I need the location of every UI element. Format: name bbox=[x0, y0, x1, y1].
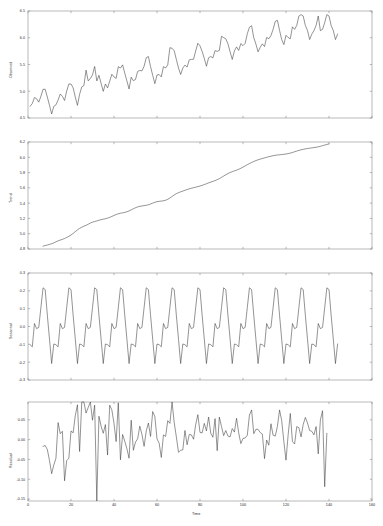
svg-text:6.5: 6.5 bbox=[20, 9, 25, 13]
svg-text:20: 20 bbox=[69, 503, 73, 507]
svg-text:120: 120 bbox=[283, 503, 289, 507]
svg-text:6.2: 6.2 bbox=[20, 140, 25, 144]
svg-text:-0.15: -0.15 bbox=[17, 497, 25, 501]
svg-text:-0.1: -0.1 bbox=[19, 343, 25, 347]
svg-text:6.0: 6.0 bbox=[20, 36, 25, 40]
panel-observed-ylabel: Observed bbox=[9, 62, 13, 78]
panel-residual-plot: -0.15-0.10-0.050.000.0502040608010012014… bbox=[0, 393, 383, 513]
panel-seasonal-plot: -0.3-0.2-0.10.00.10.20.3 bbox=[0, 262, 383, 392]
panel-observed-plot: 4.55.05.56.06.5 bbox=[0, 0, 383, 130]
svg-text:160: 160 bbox=[369, 503, 375, 507]
panel-trend: Trend 4.85.05.25.45.65.86.06.2 bbox=[0, 131, 383, 261]
decomposition-figure: Observed 4.55.05.56.06.5 Trend 4.85.05.2… bbox=[0, 0, 383, 526]
svg-text:5.4: 5.4 bbox=[20, 202, 25, 206]
svg-text:40: 40 bbox=[112, 503, 116, 507]
panel-trend-plot: 4.85.05.25.45.65.86.06.2 bbox=[0, 131, 383, 261]
svg-text:0.00: 0.00 bbox=[18, 438, 25, 442]
x-axis-label: Time bbox=[192, 512, 200, 516]
svg-text:5.0: 5.0 bbox=[20, 232, 25, 236]
svg-text:140: 140 bbox=[326, 503, 332, 507]
panel-residual: Residual -0.15-0.10-0.050.000.0502040608… bbox=[0, 393, 383, 526]
svg-text:-0.10: -0.10 bbox=[17, 478, 25, 482]
svg-text:6.0: 6.0 bbox=[20, 156, 25, 160]
svg-text:5.8: 5.8 bbox=[20, 171, 25, 175]
svg-text:-0.05: -0.05 bbox=[17, 458, 25, 462]
svg-text:-0.3: -0.3 bbox=[19, 378, 25, 382]
svg-text:0.3: 0.3 bbox=[20, 271, 25, 275]
panel-trend-ylabel: Trend bbox=[9, 193, 13, 203]
svg-text:0.0: 0.0 bbox=[20, 325, 25, 329]
svg-text:100: 100 bbox=[240, 503, 246, 507]
svg-text:-0.2: -0.2 bbox=[19, 361, 25, 365]
svg-text:5.2: 5.2 bbox=[20, 217, 25, 221]
svg-text:4.5: 4.5 bbox=[20, 116, 25, 120]
svg-text:0: 0 bbox=[27, 503, 29, 507]
svg-text:80: 80 bbox=[198, 503, 202, 507]
panel-seasonal-ylabel: Seasonal bbox=[9, 323, 13, 339]
svg-text:4.8: 4.8 bbox=[20, 247, 25, 251]
panel-seasonal: Seasonal -0.3-0.2-0.10.00.10.20.3 bbox=[0, 262, 383, 392]
panel-residual-ylabel: Residual bbox=[9, 453, 13, 468]
svg-text:0.2: 0.2 bbox=[20, 289, 25, 293]
svg-text:5.5: 5.5 bbox=[20, 63, 25, 67]
svg-text:60: 60 bbox=[155, 503, 159, 507]
svg-text:5.6: 5.6 bbox=[20, 186, 25, 190]
svg-text:0.05: 0.05 bbox=[18, 418, 25, 422]
svg-text:5.0: 5.0 bbox=[20, 90, 25, 94]
svg-text:0.1: 0.1 bbox=[20, 307, 25, 311]
panel-observed: Observed 4.55.05.56.06.5 bbox=[0, 0, 383, 130]
